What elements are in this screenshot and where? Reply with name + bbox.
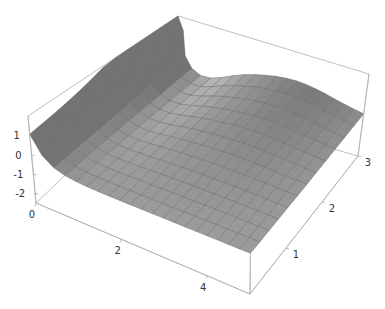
x-tick-label: 0 bbox=[29, 209, 35, 220]
surface-mesh bbox=[30, 16, 364, 253]
y-tick-label: 2 bbox=[329, 203, 335, 214]
z-tick-label: 0 bbox=[15, 150, 21, 161]
x-tick-label: 2 bbox=[114, 245, 120, 256]
x-tick-label: 4 bbox=[200, 282, 206, 293]
y-tick-label: 3 bbox=[365, 157, 371, 168]
z-tick-label: 1 bbox=[13, 130, 19, 141]
surface-plot-3d: 10-1-2 024 123 bbox=[0, 0, 385, 309]
z-tick-label: -1 bbox=[13, 169, 23, 180]
z-tick-label: -2 bbox=[15, 188, 25, 199]
y-tick-label: 1 bbox=[293, 249, 299, 260]
